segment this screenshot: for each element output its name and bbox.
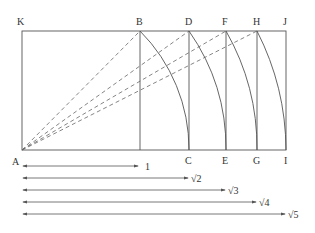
measurement-arrows [23,166,285,214]
label-G: G [253,155,260,166]
label-H: H [253,16,260,27]
arcs [140,31,286,150]
arrow-label-sqrt4: √4 [259,197,270,208]
vertical-lines [140,31,257,150]
root-rectangles-diagram: K B D F H J A C E G I 1 √2 √3 √4 √5 [0,0,315,233]
label-J: J [283,16,287,27]
label-E: E [222,155,228,166]
label-C: C [185,155,192,166]
point-labels: K B D F H J A C E G I [12,16,287,167]
arrow-label-sqrt5: √5 [288,209,299,220]
label-I: I [284,155,287,166]
label-F: F [222,16,228,27]
arrow-label-sqrt2: √2 [191,173,202,184]
arrow-labels: 1 √2 √3 √4 √5 [145,161,299,220]
label-B: B [136,16,143,27]
arrow-label-sqrt3: √3 [228,185,239,196]
label-A: A [12,156,20,167]
dashed-diagonals [22,31,257,150]
outer-rectangle [22,31,286,150]
arrow-label-1: 1 [145,161,150,172]
label-D: D [185,16,192,27]
label-K: K [17,16,25,27]
